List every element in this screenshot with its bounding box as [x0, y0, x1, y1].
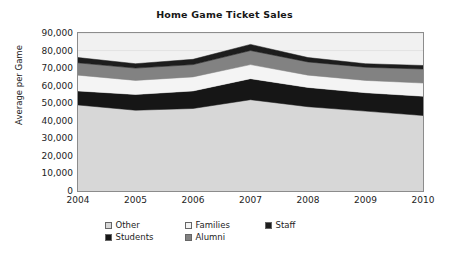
legend-item-alumni[interactable]: Alumni: [185, 233, 265, 242]
legend-label: Other: [116, 221, 140, 230]
legend-item-families[interactable]: Families: [185, 221, 265, 230]
chart-container: Home Game Ticket Sales Average per Game …: [0, 0, 449, 259]
legend-row: StudentsAlumni: [0, 231, 449, 243]
y-tick-label: 80,000: [19, 46, 73, 56]
legend-swatch-icon: [185, 222, 192, 229]
legend-label: Staff: [276, 221, 296, 230]
chart-legend: OtherFamiliesStaffStudentsAlumni: [0, 219, 449, 243]
y-tick-label: 40,000: [19, 116, 73, 126]
legend-label: Students: [116, 233, 154, 242]
x-axis-tick-labels: 2004200520062007200820092010: [0, 195, 449, 211]
y-tick-label: 50,000: [19, 98, 73, 108]
legend-row: OtherFamiliesStaff: [0, 219, 449, 231]
y-tick-label: 30,000: [19, 133, 73, 143]
y-tick-label: 60,000: [19, 81, 73, 91]
plot-area: [77, 32, 424, 192]
y-tick-label: 20,000: [19, 151, 73, 161]
x-tick-label: 2007: [221, 195, 281, 205]
x-tick-label: 2009: [336, 195, 396, 205]
legend-item-other[interactable]: Other: [105, 221, 185, 230]
legend-swatch-icon: [105, 222, 112, 229]
y-tick-label: 90,000: [19, 28, 73, 38]
x-tick-label: 2008: [278, 195, 338, 205]
stacked-area-svg: [78, 33, 423, 191]
legend-item-students[interactable]: Students: [105, 233, 185, 242]
legend-swatch-icon: [185, 234, 192, 241]
legend-swatch-icon: [105, 234, 112, 241]
x-tick-label: 2006: [163, 195, 223, 205]
area-series-other: [78, 100, 423, 191]
legend-label: Alumni: [196, 233, 226, 242]
legend-swatch-icon: [265, 222, 272, 229]
y-tick-label: 10,000: [19, 168, 73, 178]
x-tick-label: 2004: [48, 195, 108, 205]
y-tick-label: 70,000: [19, 63, 73, 73]
x-tick-label: 2005: [106, 195, 166, 205]
legend-label: Families: [196, 221, 230, 230]
legend-item-staff[interactable]: Staff: [265, 221, 345, 230]
x-tick-label: 2010: [393, 195, 449, 205]
